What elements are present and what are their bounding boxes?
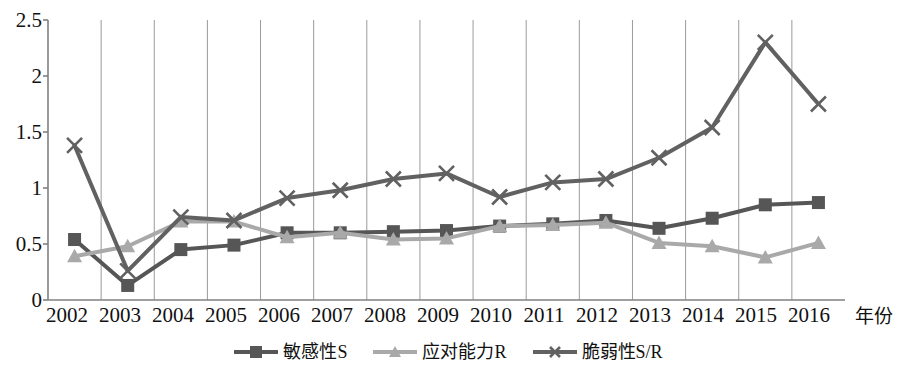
x-axis-title: 年份 [855, 306, 893, 327]
legend-entry-sensitivity: 敏感性S [234, 342, 347, 362]
chart-legend: 敏感性S 应对能力R 脆弱性S/R [0, 342, 897, 362]
legend-label-sensitivity: 敏感性S [283, 342, 347, 362]
legend-swatch-square-icon [234, 344, 278, 360]
x-tick-label-2016: 2016 [769, 305, 849, 326]
vulnerability-line-chart: 2.5 2 1.5 1 0.5 0 2002 2003 2004 2005 20… [0, 0, 897, 369]
legend-swatch-triangle-icon [373, 344, 417, 360]
legend-label-vulnerability: 脆弱性S/R [582, 342, 663, 362]
legend-swatch-x-icon [533, 344, 577, 360]
legend-entry-vulnerability: 脆弱性S/R [533, 342, 663, 362]
axis-frame [43, 20, 845, 300]
legend-label-resilience: 应对能力R [422, 342, 506, 362]
legend-entry-resilience: 应对能力R [373, 342, 506, 362]
gridlines [101, 20, 792, 300]
series-layer [67, 35, 826, 292]
